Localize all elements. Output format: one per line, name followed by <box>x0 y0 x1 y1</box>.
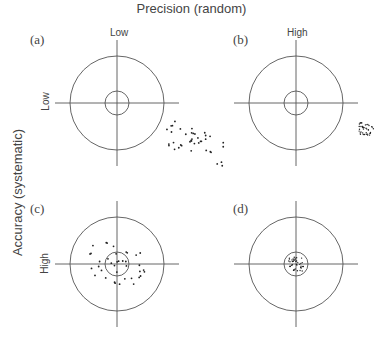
targets-diagram <box>0 0 383 337</box>
target-c <box>55 201 179 327</box>
target-a <box>55 40 179 166</box>
target-b <box>234 40 358 166</box>
